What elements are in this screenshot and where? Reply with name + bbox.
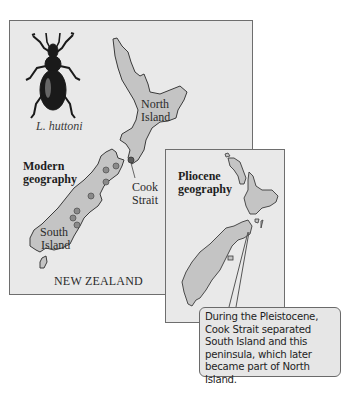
callout-pointer-right: [236, 232, 249, 307]
pliocene-south-island-shape: [182, 220, 252, 306]
pliocene-northland-shape: [228, 158, 246, 184]
pliocene-north-island-shape: [244, 172, 278, 214]
pleistocene-callout: During the Pleistocene, Cook Strait sepa…: [199, 307, 341, 377]
pliocene-geography-title-2: geography: [178, 183, 232, 196]
